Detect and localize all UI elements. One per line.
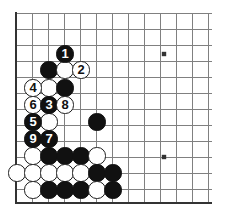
- stone-move-number: 6: [30, 98, 37, 111]
- stone-move-number: 4: [30, 81, 37, 94]
- stone-move-1[interactable]: 1: [56, 45, 73, 62]
- stone-move-number: 3: [46, 98, 53, 111]
- stone-black-plain-b[interactable]: [56, 79, 73, 96]
- stone-black-plain-f[interactable]: [72, 147, 89, 164]
- stone-move-number: 2: [78, 63, 85, 76]
- stone-black-plain-j[interactable]: [56, 181, 73, 198]
- stone-layer: 124638597: [0, 0, 238, 223]
- stone-move-number: 8: [62, 98, 69, 111]
- stone-move-number: 1: [62, 47, 69, 60]
- stone-white-plain-d[interactable]: [24, 147, 41, 164]
- stone-white-plain-h[interactable]: [40, 164, 57, 181]
- stone-move-7[interactable]: 7: [40, 130, 57, 147]
- stone-white-plain-e[interactable]: [88, 147, 105, 164]
- stone-white-plain-a[interactable]: [56, 61, 73, 78]
- stone-black-plain-g[interactable]: [88, 164, 105, 181]
- stone-move-4[interactable]: 4: [24, 79, 41, 96]
- stone-move-9[interactable]: 9: [24, 130, 41, 147]
- stone-white-plain-c[interactable]: [40, 113, 57, 130]
- stone-move-6[interactable]: 6: [24, 96, 41, 113]
- stone-white-plain-k[interactable]: [24, 181, 41, 198]
- stone-move-number: 5: [30, 115, 37, 128]
- stone-white-plain-f[interactable]: [8, 164, 25, 181]
- stone-move-2[interactable]: 2: [72, 61, 89, 78]
- stone-white-plain-g[interactable]: [24, 164, 41, 181]
- stone-white-plain-l[interactable]: [88, 181, 105, 198]
- stone-black-plain-i[interactable]: [40, 181, 57, 198]
- stone-black-plain-k[interactable]: [72, 181, 89, 198]
- stone-move-8[interactable]: 8: [56, 96, 73, 113]
- stone-move-5[interactable]: 5: [24, 113, 41, 130]
- stone-move-3[interactable]: 3: [40, 96, 57, 113]
- stone-move-number: 7: [46, 132, 53, 145]
- stone-white-plain-j[interactable]: [72, 164, 89, 181]
- stone-black-plain-d[interactable]: [40, 147, 57, 164]
- stone-move-number: 9: [30, 132, 37, 145]
- stone-black-plain-e[interactable]: [56, 147, 73, 164]
- stone-white-plain-i[interactable]: [56, 164, 73, 181]
- stone-white-plain-b[interactable]: [40, 79, 57, 96]
- stone-black-plain-l[interactable]: [104, 181, 121, 198]
- stone-black-plain-c[interactable]: [88, 113, 105, 130]
- go-board-diagram: 124638597: [0, 0, 238, 223]
- stone-black-plain-h[interactable]: [104, 164, 121, 181]
- stone-black-plain-a[interactable]: [40, 61, 57, 78]
